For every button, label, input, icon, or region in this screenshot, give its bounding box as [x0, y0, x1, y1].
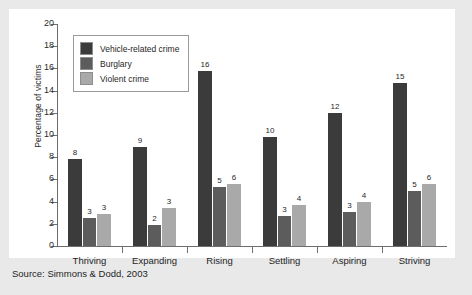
y-tick-label: 18: [44, 40, 54, 50]
bar: [263, 137, 277, 246]
bar-value-label: 10: [266, 126, 275, 135]
legend-label: Burglary: [100, 59, 132, 69]
bar-value-label: 15: [396, 72, 405, 81]
bar-value-label: 4: [297, 194, 301, 203]
chart-legend: Vehicle-related crimeBurglaryViolent cri…: [73, 35, 189, 92]
source-note: Source: Simmons & Dodd, 2003: [12, 268, 148, 279]
legend-item: Violent crime: [80, 71, 179, 86]
y-tick-label: 16: [44, 62, 54, 72]
y-tick-label: 10: [44, 129, 54, 139]
x-tick-mark: [317, 246, 318, 253]
legend-swatch: [80, 72, 93, 85]
bar-value-label: 5: [412, 180, 416, 189]
bar-value-label: 3: [102, 203, 106, 212]
bar: [343, 212, 357, 246]
bar: [393, 83, 407, 246]
y-tick-label: 20: [44, 18, 54, 28]
bar-value-label: 16: [201, 60, 210, 69]
bar-value-label: 3: [87, 207, 91, 216]
bar: [133, 147, 147, 246]
legend-label: Violent crime: [100, 74, 149, 84]
x-axis-category-label: Expanding: [132, 255, 177, 266]
chart-page: Percentage of victims 02468101214161820 …: [0, 0, 472, 295]
bar: [328, 113, 342, 246]
y-tick-label: 0: [49, 240, 54, 250]
bar-value-label: 3: [347, 201, 351, 210]
bar-value-label: 6: [427, 173, 431, 182]
x-axis-category-label: Settling: [269, 255, 301, 266]
x-tick-mark: [187, 246, 188, 253]
legend-swatch: [80, 57, 93, 70]
bar: [148, 225, 162, 246]
y-tick-label: 8: [49, 151, 54, 161]
bar-value-label: 2: [152, 214, 156, 223]
bar: [357, 202, 371, 246]
y-axis-title: Percentage of victims: [33, 36, 43, 176]
bar: [227, 184, 241, 246]
bar-value-label: 3: [282, 205, 286, 214]
y-tick-label: 12: [44, 107, 54, 117]
bar-value-label: 12: [331, 102, 340, 111]
x-tick-mark: [382, 246, 383, 253]
x-tick-mark: [252, 246, 253, 253]
y-axis-line: [57, 24, 58, 246]
y-tick-label: 14: [44, 85, 54, 95]
x-axis-category-label: Aspiring: [332, 255, 366, 266]
bar-value-label: 4: [362, 191, 366, 200]
legend-swatch: [80, 42, 93, 55]
bar: [408, 191, 422, 247]
bar: [83, 218, 97, 246]
chart-panel: Percentage of victims 02468101214161820 …: [9, 9, 455, 258]
x-axis-category-label: Rising: [206, 255, 232, 266]
bar: [162, 208, 176, 246]
y-tick-label: 2: [49, 218, 54, 228]
y-tick-label: 6: [49, 173, 54, 183]
bar: [422, 184, 436, 246]
legend-item: Burglary: [80, 56, 179, 71]
bar: [278, 216, 292, 246]
bar: [198, 71, 212, 246]
bar-value-label: 9: [138, 136, 142, 145]
y-tick-label: 4: [49, 196, 54, 206]
legend-label: Vehicle-related crime: [100, 44, 179, 54]
bar: [97, 214, 111, 246]
bar-value-label: 8: [73, 148, 77, 157]
bar: [213, 187, 227, 246]
bar-value-label: 3: [167, 197, 171, 206]
x-axis-category-label: Thriving: [73, 255, 107, 266]
bar-value-label: 6: [232, 173, 236, 182]
legend-item: Vehicle-related crime: [80, 41, 179, 56]
x-tick-mark: [122, 246, 123, 253]
bar-value-label: 5: [217, 176, 221, 185]
x-axis-category-label: Striving: [399, 255, 431, 266]
bar: [292, 205, 306, 246]
bar: [68, 159, 82, 246]
